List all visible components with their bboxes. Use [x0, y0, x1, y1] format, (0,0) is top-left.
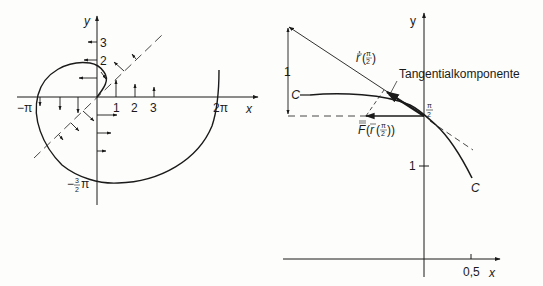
right-curve-label-start: C	[291, 88, 300, 102]
right-x-axis-label: x	[488, 266, 496, 280]
left-y-tick-neg-three-half-pi: − 3 2 π	[67, 177, 89, 193]
left-y-tick-3: 3	[100, 36, 107, 50]
svg-text:r: r	[370, 123, 375, 137]
left-x-axis-label: x	[245, 102, 253, 116]
svg-text:2: 2	[75, 186, 79, 193]
right-y-tick-label: 1	[409, 159, 416, 173]
right-curve-label-end: C	[471, 181, 480, 195]
svg-text:2: 2	[427, 111, 431, 118]
left-x-tick-neg-pi: −π	[17, 101, 32, 115]
svg-text:π: π	[427, 102, 432, 109]
right-force-label: F ( r ( π 2 ))	[358, 121, 395, 137]
right-velocity-label: r ( π 2 )	[356, 50, 376, 65]
svg-text:r: r	[356, 51, 361, 65]
left-spiral-curve	[36, 63, 219, 184]
svg-text:π: π	[366, 50, 371, 57]
figure-canvas: x y 1 2 3 −π 2π 3 2 − 3 2 π	[0, 0, 543, 286]
left-x-tick-1: 1	[113, 101, 120, 115]
right-projection-dashed	[366, 90, 384, 116]
left-x-tick-2: 2	[131, 101, 138, 115]
right-tangent-component-diagram: x y 0,5 1 1 C C Tangentialkomponente	[283, 13, 520, 280]
svg-text:)): ))	[387, 123, 395, 137]
right-x-tick-label: 0,5	[463, 265, 480, 279]
svg-text:(: (	[376, 123, 380, 137]
left-y-axis-label: y	[83, 14, 91, 28]
right-scale-label: 1	[284, 65, 291, 79]
svg-text:π: π	[81, 177, 89, 191]
svg-text:3: 3	[75, 177, 79, 184]
right-point-label-pi-half: π 2	[426, 102, 433, 118]
svg-text:π: π	[381, 122, 386, 129]
svg-text:): )	[372, 51, 376, 65]
svg-text:−: −	[67, 177, 74, 191]
svg-text:2: 2	[381, 130, 385, 137]
left-x-tick-3: 3	[150, 101, 157, 115]
right-y-axis-label: y	[410, 14, 416, 28]
right-tangent-label: Tangentialkomponente	[399, 67, 520, 81]
left-x-tick-2pi: 2π	[213, 101, 228, 115]
svg-text:F: F	[358, 123, 366, 137]
left-y-tick-2: 2	[100, 54, 107, 68]
svg-text:2: 2	[366, 58, 370, 65]
left-vector-field-diagram: x y 1 2 3 −π 2π 3 2 − 3 2 π	[17, 14, 258, 205]
right-tangent-leader	[389, 81, 397, 96]
